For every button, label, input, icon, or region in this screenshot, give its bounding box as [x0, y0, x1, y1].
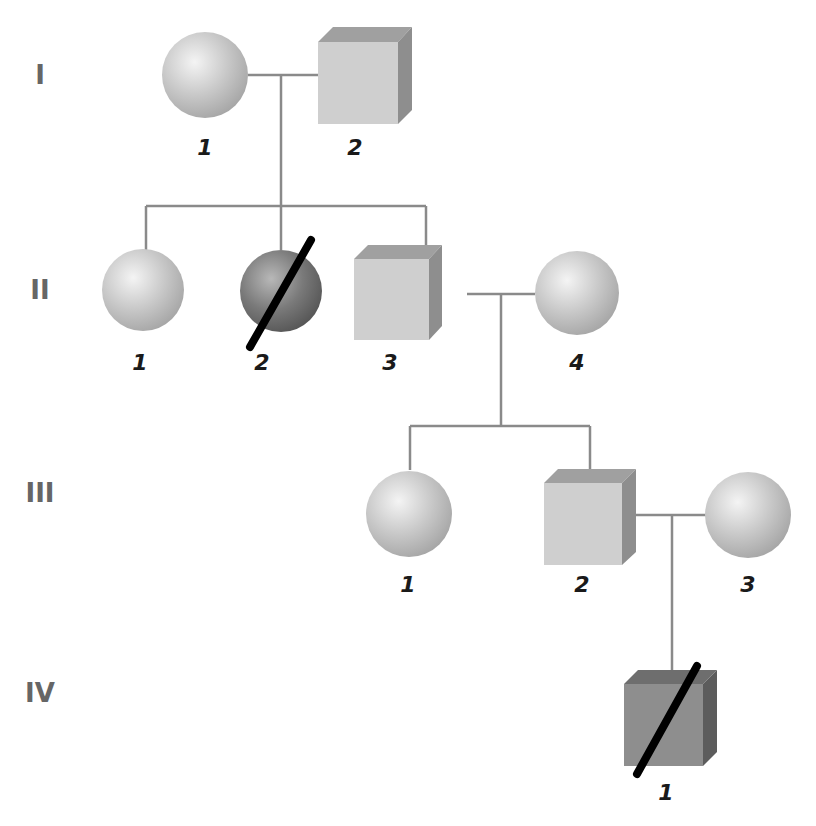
individual-number: 2 — [347, 135, 362, 160]
individual-number: 2 — [254, 350, 269, 375]
individual-iv-1: 1 — [624, 666, 717, 805]
female-unaffected-icon — [102, 249, 184, 331]
generation-label-iv: IV — [25, 678, 55, 708]
individual-iii-1: 1 — [366, 471, 452, 597]
individual-ii-1: 1 — [102, 249, 184, 375]
individual-ii-4: 4 — [535, 251, 619, 375]
pedigree-chart: I II III IV 1 2 1 — [0, 0, 816, 826]
individual-ii-2: 2 — [240, 240, 322, 375]
individual-number: 1 — [132, 350, 147, 375]
individual-number: 3 — [382, 350, 397, 375]
male-unaffected-icon — [544, 469, 636, 565]
male-unaffected-icon — [318, 27, 412, 124]
individual-iii-2: 2 — [544, 469, 636, 597]
female-unaffected-icon — [535, 251, 619, 335]
female-unaffected-icon — [705, 472, 791, 558]
individual-number: 2 — [574, 572, 589, 597]
individual-number: 4 — [568, 350, 584, 375]
male-unaffected-icon — [354, 245, 442, 340]
individual-iii-3: 3 — [705, 472, 791, 597]
generation-label-ii: II — [30, 275, 49, 305]
individual-number: 1 — [658, 780, 673, 805]
mating-line-iii — [632, 515, 706, 672]
individual-number: 1 — [197, 135, 212, 160]
female-unaffected-icon — [162, 32, 248, 118]
female-unaffected-icon — [366, 471, 452, 557]
individual-number: 3 — [740, 572, 755, 597]
individual-ii-3: 3 — [354, 245, 442, 375]
generation-label-iii: III — [25, 478, 54, 508]
individual-i-1: 1 — [162, 32, 248, 160]
individual-i-2: 2 — [318, 27, 412, 160]
individual-number: 1 — [400, 572, 415, 597]
generation-label-i: I — [35, 60, 45, 90]
